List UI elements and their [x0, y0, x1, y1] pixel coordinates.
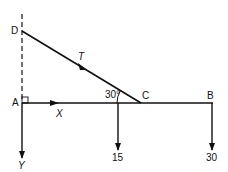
- label-B: B: [207, 90, 214, 101]
- label-T: T: [78, 51, 85, 62]
- right-angle-marker: [22, 97, 28, 103]
- force-diagram: D A C B T X Y 30° 15 30: [0, 0, 228, 172]
- label-A: A: [12, 97, 19, 108]
- label-D: D: [11, 25, 18, 36]
- label-load-30: 30: [206, 152, 218, 163]
- label-C: C: [142, 90, 149, 101]
- label-angle: 30°: [105, 89, 120, 100]
- label-Y: Y: [18, 160, 26, 171]
- x-reaction-arrow-icon: [50, 100, 59, 106]
- label-load-15: 15: [112, 152, 124, 163]
- label-X: X: [55, 108, 63, 119]
